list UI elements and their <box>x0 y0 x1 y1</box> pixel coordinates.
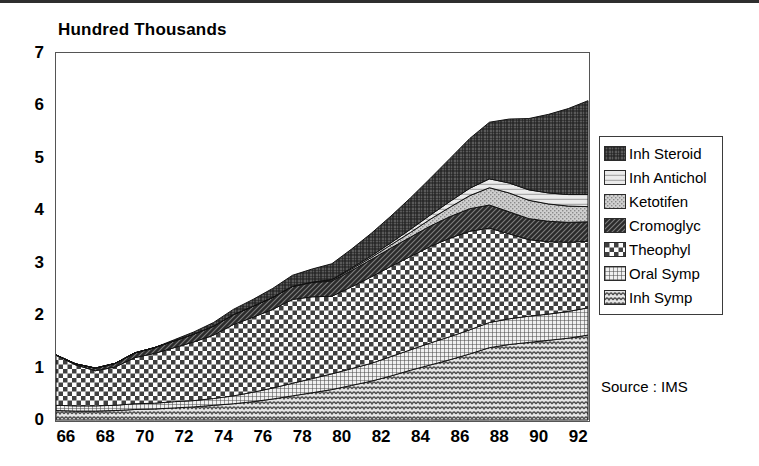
y-tick-label: 7 <box>22 43 44 63</box>
x-tick-label: 92 <box>563 427 593 447</box>
x-tick-label: 72 <box>169 427 199 447</box>
x-tick-label: 88 <box>484 427 514 447</box>
legend-swatch-inh-antichol <box>604 170 626 185</box>
legend-label-cromoglyc: Cromoglyc <box>629 218 701 233</box>
legend-item[interactable]: Inh Antichol <box>604 165 719 189</box>
x-tick-label: 74 <box>208 427 238 447</box>
legend-label-ketotifen: Ketotifen <box>629 194 688 209</box>
y-tick-label: 6 <box>22 95 44 115</box>
legend-label-theophyl: Theophyl <box>629 242 691 257</box>
legend-label-inh-antichol: Inh Antichol <box>629 170 707 185</box>
x-tick-label: 86 <box>445 427 475 447</box>
legend-label-inh-steroid: Inh Steroid <box>629 146 702 161</box>
x-tick-label: 70 <box>130 427 160 447</box>
legend-swatch-ketotifen <box>604 194 626 209</box>
x-tick-label: 90 <box>524 427 554 447</box>
legend-item[interactable]: Theophyl <box>604 237 719 261</box>
legend-swatch-inh-symp <box>604 290 626 305</box>
legend-item[interactable]: Oral Symp <box>604 261 719 285</box>
y-tick-label: 0 <box>22 410 44 430</box>
x-tick-label: 82 <box>366 427 396 447</box>
chart-legend: Inh Steroid Inh Antichol Ketotifen Cromo… <box>599 136 723 315</box>
legend-swatch-inh-steroid <box>604 146 626 161</box>
legend-label-oral-symp: Oral Symp <box>629 266 700 281</box>
y-tick-label: 1 <box>22 358 44 378</box>
x-tick-label: 80 <box>327 427 357 447</box>
x-tick-label: 84 <box>406 427 436 447</box>
legend-item[interactable]: Cromoglyc <box>604 213 719 237</box>
y-tick-label: 5 <box>22 148 44 168</box>
x-tick-label: 68 <box>90 427 120 447</box>
x-tick-label: 66 <box>51 427 81 447</box>
source-note: Source : IMS <box>601 378 688 395</box>
legend-swatch-cromoglyc <box>604 218 626 233</box>
legend-swatch-oral-symp <box>604 266 626 281</box>
y-tick-label: 4 <box>22 200 44 220</box>
chart-figure: Hundred Thousands <box>0 0 759 466</box>
x-tick-label: 78 <box>287 427 317 447</box>
legend-item[interactable]: Inh Symp <box>604 285 719 309</box>
y-tick-label: 2 <box>22 305 44 325</box>
legend-label-inh-symp: Inh Symp <box>629 290 692 305</box>
x-tick-label: 76 <box>248 427 278 447</box>
legend-item[interactable]: Ketotifen <box>604 189 719 213</box>
y-tick-label: 3 <box>22 253 44 273</box>
legend-item[interactable]: Inh Steroid <box>604 141 719 165</box>
legend-swatch-theophyl <box>604 242 626 257</box>
